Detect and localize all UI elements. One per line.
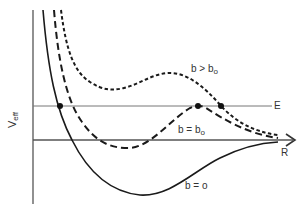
effective-potential-diagram — [0, 0, 308, 212]
turning-point-dot — [195, 103, 201, 109]
turning-point-dot — [57, 103, 63, 109]
curve-b-greater — [61, 10, 278, 135]
turning-point-dot — [218, 103, 224, 109]
energy-line-label: E — [274, 101, 281, 111]
curve-b-critical — [54, 10, 278, 148]
curve-label-b-zero: b = o — [185, 181, 208, 191]
curve-b-zero — [43, 10, 278, 195]
x-axis-label: R — [281, 148, 288, 158]
y-axis-label: Veff — [6, 112, 20, 128]
curve-label-b-greater: b > bo — [191, 64, 218, 76]
curve-label-b-critical: b = bo — [178, 125, 205, 137]
